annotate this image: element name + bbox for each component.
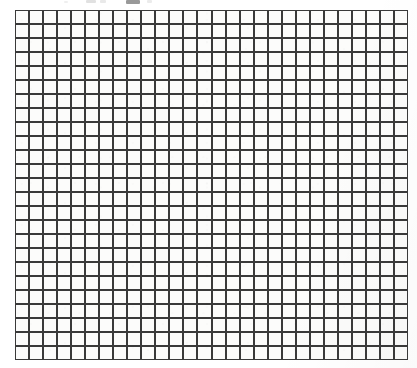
caption-smudge-mark: [147, 0, 152, 3]
caption-smudge-mark: [100, 0, 106, 3]
caption-smudge-mark: [126, 0, 140, 4]
caption-smudge-mark: [64, 1, 68, 3]
scanned-page: [0, 0, 417, 368]
clipped-caption-remnant: [0, 0, 417, 9]
caption-smudge-mark: [86, 0, 96, 3]
grid-line-layer: [15, 10, 408, 360]
graph-paper-grid: [15, 10, 408, 360]
